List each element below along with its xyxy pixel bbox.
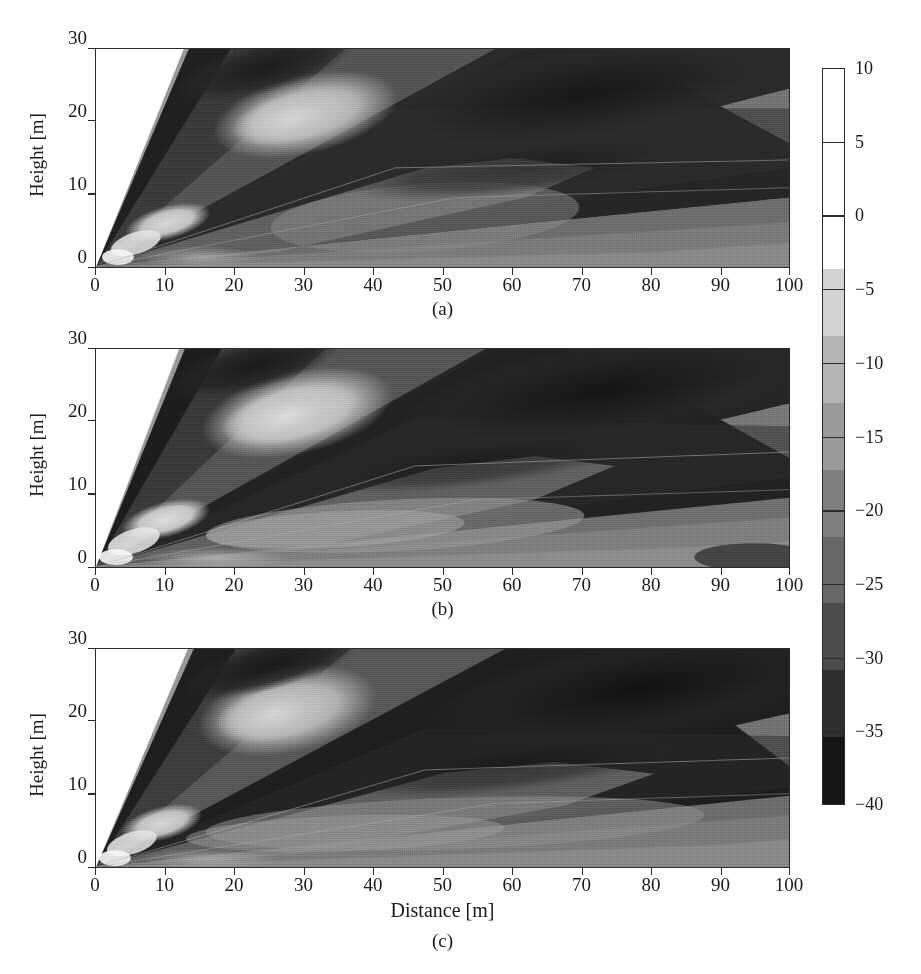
xtick-label-c-50: 50 xyxy=(433,874,452,896)
ytick-b-20 xyxy=(88,420,95,421)
xtick-label-c-100: 100 xyxy=(775,874,804,896)
xtick-label-b-10: 10 xyxy=(155,574,174,596)
xtick-label-b-50: 50 xyxy=(433,574,452,596)
colorbar-tick--40 xyxy=(822,804,845,805)
xtick-label-b-20: 20 xyxy=(225,574,244,596)
plot-area-c xyxy=(95,648,790,868)
xtick-label-a-60: 60 xyxy=(503,274,522,296)
xtick-label-c-40: 40 xyxy=(364,874,383,896)
colorbar-label-10: 10 xyxy=(855,58,873,79)
ytick-label-b-20: 20 xyxy=(68,400,87,422)
colorbar-tick--25 xyxy=(822,584,845,585)
ytick-label-c-30: 30 xyxy=(68,627,87,649)
xtick-a-top-20 xyxy=(234,48,235,56)
colorbar-tick--15 xyxy=(822,437,845,438)
colorbar-label--35: −35 xyxy=(855,721,883,742)
xtick-label-c-20: 20 xyxy=(225,874,244,896)
caption-b: (b) xyxy=(95,598,790,620)
yaxis-title-c: Height [m] xyxy=(26,695,48,815)
colorbar-label--25: −25 xyxy=(855,573,883,594)
caption-c: (c) xyxy=(95,930,790,952)
xtick-label-a-100: 100 xyxy=(775,274,804,296)
ytick-a-30 xyxy=(88,48,95,49)
yaxis-title-a: Height [m] xyxy=(26,95,48,215)
ytick-c-0 xyxy=(88,867,95,868)
colorbar-band--25--30 xyxy=(823,537,844,604)
colorbar-label-0: 0 xyxy=(855,205,864,226)
xtick-label-c-60: 60 xyxy=(503,874,522,896)
ytick-b-30 xyxy=(88,348,95,349)
ytick-label-a-10: 10 xyxy=(68,173,87,195)
field-image-c xyxy=(96,649,789,867)
colorbar-label--20: −20 xyxy=(855,500,883,521)
colorbar-band--40-end xyxy=(823,737,844,804)
colorbar-label--15: −15 xyxy=(855,426,883,447)
subplot-c: 0 10 20 30 40 50 60 70 80 90 100 0 10 20… xyxy=(95,648,790,868)
xtick-label-a-10: 10 xyxy=(155,274,174,296)
ytick-label-b-10: 10 xyxy=(68,473,87,495)
ytick-b-10 xyxy=(88,493,95,494)
colorbar-label--40: −40 xyxy=(855,794,883,815)
ytick-a-10 xyxy=(88,193,95,194)
colorbar-band--35--40 xyxy=(823,670,844,737)
caption-a: (a) xyxy=(95,298,790,320)
xtick-label-c-10: 10 xyxy=(155,874,174,896)
xtick-label-c-70: 70 xyxy=(572,874,591,896)
colorbar-label-5: 5 xyxy=(855,131,864,152)
ytick-c-10 xyxy=(88,793,95,794)
colorbar-tick--30 xyxy=(822,658,845,659)
subplot-b: 0 10 20 30 40 50 60 70 80 90 100 0 10 20… xyxy=(95,348,790,568)
colorbar-band-0--5 xyxy=(823,203,844,270)
yaxis-title-b: Height [m] xyxy=(26,395,48,515)
xtick-label-c-0: 0 xyxy=(90,874,100,896)
xtick-label-c-80: 80 xyxy=(642,874,661,896)
ytick-label-a-0: 0 xyxy=(78,246,88,268)
ytick-c-30 xyxy=(88,648,95,649)
ytick-b-0 xyxy=(88,567,95,568)
ytick-a-20 xyxy=(88,120,95,121)
field-image-a xyxy=(96,49,789,267)
colorbar-tick-5 xyxy=(822,142,845,143)
ytick-label-b-0: 0 xyxy=(78,546,88,568)
ytick-a-0 xyxy=(88,267,95,268)
xtick-label-b-90: 90 xyxy=(711,574,730,596)
ytick-label-c-20: 20 xyxy=(68,700,87,722)
xtick-c-top-20 xyxy=(234,648,235,656)
xtick-label-a-50: 50 xyxy=(433,274,452,296)
xtick-b-top-20 xyxy=(234,348,235,356)
xtick-label-a-30: 30 xyxy=(294,274,313,296)
ytick-label-a-30: 30 xyxy=(68,27,87,49)
xtick-label-c-90: 90 xyxy=(711,874,730,896)
xtick-label-b-40: 40 xyxy=(364,574,383,596)
xtick-label-b-30: 30 xyxy=(294,574,313,596)
colorbar-tick--20 xyxy=(822,510,845,511)
ytick-label-c-0: 0 xyxy=(78,846,88,868)
colorbar-band--20--25 xyxy=(823,470,844,537)
colorbar-tick-10 xyxy=(822,68,845,69)
xtick-label-b-60: 60 xyxy=(503,574,522,596)
colorbar-band-5-0 xyxy=(823,136,844,203)
ytick-label-a-20: 20 xyxy=(68,100,87,122)
subplot-a: 0 10 20 30 40 50 60 70 80 90 100 0 10 20… xyxy=(95,48,790,268)
field-image-b xyxy=(96,349,789,567)
ytick-c-20 xyxy=(88,720,95,721)
xtick-label-a-20: 20 xyxy=(225,274,244,296)
colorbar-band--5--10 xyxy=(823,269,844,336)
xtick-label-a-90: 90 xyxy=(711,274,730,296)
colorbar-tick-0 xyxy=(822,215,845,216)
colorbar-tick--10 xyxy=(822,363,845,364)
xtick-label-a-80: 80 xyxy=(642,274,661,296)
colorbar-tick--35 xyxy=(822,731,845,732)
colorbar-band--30--35 xyxy=(823,603,844,670)
colorbar-band--10--15 xyxy=(823,336,844,403)
xtick-label-b-100: 100 xyxy=(775,574,804,596)
xtick-label-c-30: 30 xyxy=(294,874,313,896)
xaxis-title: Distance [m] xyxy=(95,899,790,922)
colorbar-label--10: −10 xyxy=(855,352,883,373)
xtick-label-b-70: 70 xyxy=(572,574,591,596)
xtick-label-a-70: 70 xyxy=(572,274,591,296)
colorbar-tick--5 xyxy=(822,289,845,290)
plot-area-b xyxy=(95,348,790,568)
xtick-label-b-80: 80 xyxy=(642,574,661,596)
colorbar-label--5: −5 xyxy=(855,279,874,300)
